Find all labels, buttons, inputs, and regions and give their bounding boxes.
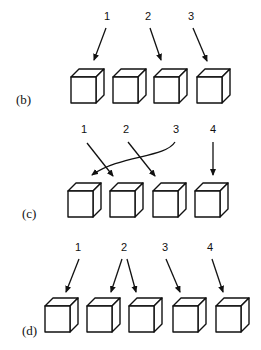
cube-block [129, 298, 162, 332]
cube-block [153, 183, 186, 217]
pointer-arrow-icon [94, 28, 106, 60]
pointer-arrow-icon [111, 259, 122, 292]
panel-d: (d)1234 [22, 241, 249, 338]
pointer-arrow-icon [166, 259, 180, 292]
pointer-arrow-icon [193, 28, 207, 61]
pointer-number-label: 1 [104, 10, 110, 22]
pointer-number-label: 2 [123, 123, 129, 135]
panel-label: (d) [22, 323, 37, 338]
pointer-number-label: 2 [145, 10, 151, 22]
cube-block [68, 183, 101, 217]
cube-block [110, 183, 143, 217]
cube-block [197, 69, 230, 103]
panel-label: (c) [22, 206, 36, 221]
pointer-number-label: 4 [210, 123, 216, 135]
pointer-arrow-icon [150, 28, 161, 60]
cube-block [87, 298, 120, 332]
pointer-arrow-icon [212, 259, 223, 292]
pointer-number-label: 4 [207, 241, 213, 253]
pointer-number-label: 3 [162, 241, 168, 253]
pointer-number-label: 1 [75, 241, 81, 253]
cube-block [113, 69, 146, 103]
panel-b: (b)123 [16, 10, 230, 107]
memory-blocks-diagram: (b)123(c)1234(d)1234 [0, 0, 261, 350]
pointer-arrow-icon [127, 259, 136, 292]
cube-block [45, 298, 78, 332]
pointer-number-label: 1 [81, 123, 87, 135]
pointer-number-label: 3 [173, 123, 179, 135]
panel-label: (b) [16, 92, 31, 107]
curved-pointer-arrow-icon [92, 142, 175, 175]
pointer-arrow-icon [87, 143, 113, 176]
diagram-layer: (b)123(c)1234(d)1234 [16, 10, 249, 338]
cube-block [216, 298, 249, 332]
pointer-arrow-icon [66, 259, 79, 292]
panel-c: (c)1234 [22, 123, 228, 221]
pointer-number-label: 2 [121, 241, 127, 253]
cube-block [154, 69, 187, 103]
cube-block [173, 298, 206, 332]
pointer-number-label: 3 [188, 10, 194, 22]
cube-block [195, 183, 228, 217]
cube-block [71, 69, 104, 103]
